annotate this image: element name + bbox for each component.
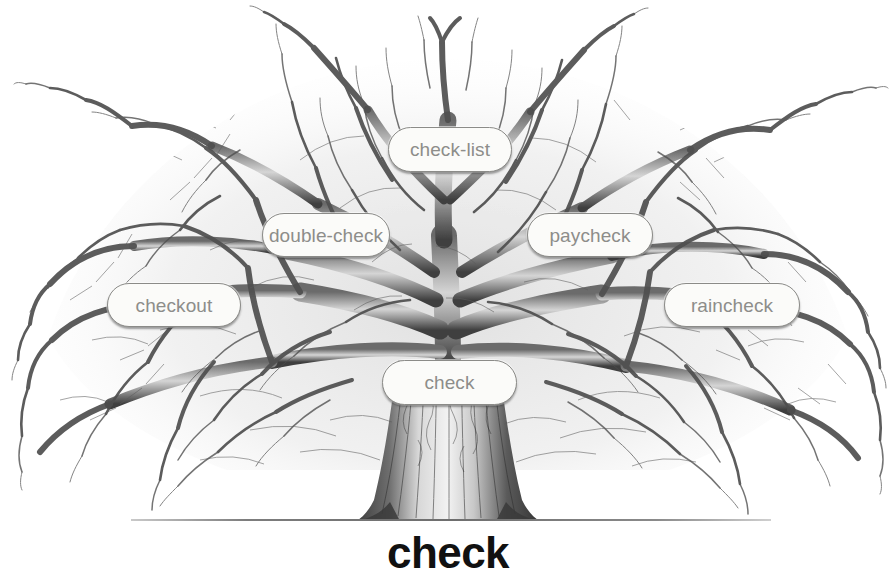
branch-label-paycheck[interactable]: paycheck [527,213,653,257]
word-tree-figure: check-list double-check paycheck checkou… [0,0,896,579]
branch-label-text: checkout [136,296,213,315]
branch-label-text: raincheck [691,296,773,315]
trunk-label-text: check [424,373,474,392]
root-word-caption: check [0,528,896,578]
branch-label-double-check[interactable]: double-check [262,213,390,257]
branch-label-checkout[interactable]: checkout [107,283,241,327]
branch-label-text: double-check [269,226,383,245]
ground-line [131,519,771,521]
branch-label-text: check-list [410,140,490,159]
branch-label-text: paycheck [549,226,630,245]
branch-label-check-list[interactable]: check-list [388,127,512,172]
branch-label-raincheck[interactable]: raincheck [664,283,800,327]
trunk-label-check[interactable]: check [382,360,517,405]
